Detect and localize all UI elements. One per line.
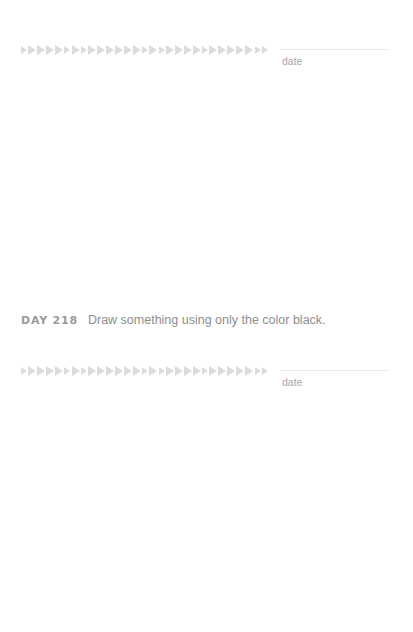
arrow-icon [64,367,70,375]
arrow-icon [227,45,235,55]
arrow-icon [97,45,105,55]
arrow-icon [159,367,165,375]
arrow-icon [236,366,244,376]
arrow-icon [159,46,165,54]
arrow-icon [97,366,105,376]
arrow-icon [21,367,27,375]
date-label-bottom: date [282,376,302,388]
day-number: DAY 218 [21,314,78,327]
date-line-bottom [280,370,390,371]
arrow-icon [236,45,244,55]
arrow-icon [55,45,63,55]
arrow-icon [184,366,192,376]
arrow-icon [227,366,235,376]
arrow-icon [245,45,253,55]
arrow-icon [64,46,70,54]
arrow-icon [81,367,87,375]
arrow-icon [72,366,80,376]
arrow-icon [142,46,148,54]
arrow-icon [149,366,157,376]
arrow-pattern-bottom [21,364,269,378]
arrow-icon [46,366,54,376]
arrow-icon [218,366,226,376]
arrow-icon [115,366,123,376]
arrow-icon [133,45,141,55]
arrow-icon [245,366,253,376]
arrow-icon [115,45,123,55]
arrow-icon [175,45,183,55]
arrow-icon [88,366,96,376]
prompt-text: Draw something using only the color blac… [88,313,326,327]
arrow-icon [202,46,208,54]
arrow-icon [124,366,132,376]
arrow-icon [28,366,36,376]
arrow-icon [149,45,157,55]
arrow-icon [133,366,141,376]
arrow-icon [72,45,80,55]
arrow-icon [106,45,114,55]
arrow-icon [28,45,36,55]
arrow-icon [46,45,54,55]
arrow-icon [81,46,87,54]
arrow-icon [255,367,261,375]
arrow-icon [166,45,174,55]
arrow-icon [142,367,148,375]
arrow-icon [175,366,183,376]
arrow-icon [21,46,27,54]
prompt: DAY 218 Draw something using only the co… [21,313,326,327]
arrow-icon [166,366,174,376]
date-line-top [280,49,390,50]
arrow-icon [193,366,201,376]
arrow-icon [37,45,45,55]
arrow-icon [55,366,63,376]
arrow-icon [106,366,114,376]
arrow-icon [255,46,261,54]
arrow-icon [209,366,217,376]
arrow-icon [37,366,45,376]
arrow-icon [202,367,208,375]
arrow-icon [124,45,132,55]
arrow-icon [218,45,226,55]
arrow-icon [209,45,217,55]
arrow-icon [184,45,192,55]
arrow-icon [262,367,268,375]
arrow-icon [262,46,268,54]
arrow-icon [88,45,96,55]
arrow-icon [193,45,201,55]
arrow-pattern-top [21,43,269,57]
date-label-top: date [282,55,302,67]
